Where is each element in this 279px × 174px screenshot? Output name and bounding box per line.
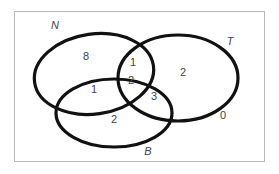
region-n-b: 1 [91,83,97,95]
region-n-t-b: 2 [128,74,134,86]
region-outside: 0 [220,109,226,121]
set-label-n: N [51,19,59,31]
set-label-t: T [227,35,234,47]
region-b-only: 2 [111,113,117,125]
venn-circles [0,0,279,174]
set-n-ellipse [29,26,159,122]
region-n-t: 1 [130,56,136,68]
region-t-b: 3 [151,90,157,102]
set-label-b: B [144,145,151,157]
region-t-only: 2 [180,66,186,78]
region-n-only: 8 [83,50,89,62]
